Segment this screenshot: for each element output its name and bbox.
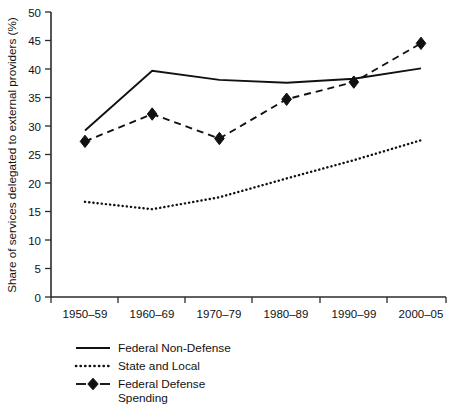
y-axis-ticks: 50 45 40 35 30 25 20 15 10 5 0: [28, 7, 51, 304]
legend-label-federal-non-defense: Federal Non-Defense: [118, 341, 231, 355]
data-point-marker: [215, 132, 225, 144]
y-tick-label-35: 35: [28, 92, 41, 104]
series-line-federal-defense-spending: [85, 43, 421, 141]
y-tick-label-5: 5: [35, 263, 41, 275]
y-tick-label-10: 10: [28, 235, 41, 247]
legend-label-state-and-local: State and Local: [118, 359, 200, 373]
figure-container: Share of services delegated to external …: [0, 0, 458, 412]
y-tick-label-30: 30: [28, 121, 41, 133]
x-tick-label-1970-79: 1970–79: [197, 308, 242, 320]
y-tick-label-45: 45: [28, 35, 41, 47]
y-tick-label-25: 25: [28, 149, 41, 161]
x-tick-label-1990-99: 1990–99: [332, 308, 377, 320]
y-tick-label-20: 20: [28, 178, 41, 190]
data-point-marker: [80, 135, 90, 147]
line-chart: Share of services delegated to external …: [0, 0, 458, 412]
y-tick-label-50: 50: [28, 7, 41, 19]
legend: Federal Non-Defense State and Local Fede…: [76, 341, 231, 405]
data-point-marker: [416, 37, 426, 49]
x-axis-ticks: 1950–59 1960–69 1970–79 1980–89 1990–99 …: [51, 297, 446, 320]
y-tick-label-0: 0: [35, 292, 41, 304]
legend-label-federal-defense: Federal Defense: [118, 377, 206, 391]
x-tick-label-1950-59: 1950–59: [63, 308, 108, 320]
x-tick-label-2000-05: 2000–05: [399, 308, 444, 320]
data-point-marker: [147, 108, 157, 120]
data-point-marker: [282, 93, 292, 105]
y-axis-label: Share of services delegated to external …: [5, 17, 18, 293]
y-tick-label-40: 40: [28, 64, 41, 76]
x-tick-label-1960-69: 1960–69: [130, 308, 175, 320]
y-tick-label-15: 15: [28, 206, 41, 218]
series-line-state-and-local: [85, 140, 421, 209]
series-markers-federal-defense-spending: [80, 37, 426, 147]
legend-diamond-icon: [88, 378, 98, 390]
legend-label-federal-defense-continuation: Spending: [118, 391, 168, 405]
x-tick-label-1980-89: 1980–89: [264, 308, 309, 320]
